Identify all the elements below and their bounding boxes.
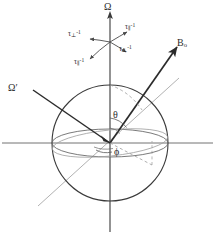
b0-base: B <box>177 37 184 48</box>
relaxation-arrow-upper-left <box>90 39 110 42</box>
tau-label-lower-right: τ⊥-1 <box>119 45 132 54</box>
phi-angle-label: ϕ <box>114 147 119 157</box>
tau-superscript: -1 <box>127 44 132 50</box>
diagram-canvas <box>0 0 216 239</box>
omega-prime-label: Ω′ <box>8 83 18 93</box>
meridian-arc-dashed <box>110 85 142 110</box>
tau-superscript: -1 <box>80 57 85 63</box>
sphere-vector-diagram: Ω Ω′ Bo θ ϕ τ∥-1 τ⊥-1 τ⊥-1 τ∥-1 <box>0 0 216 239</box>
b0-subscript: o <box>184 41 187 48</box>
tau-label-upper-left: τ⊥-1 <box>68 30 81 39</box>
relaxation-arrow-upper-right <box>110 32 127 42</box>
omega-axis-label: Ω <box>104 2 111 12</box>
omega-prime-vector-line <box>33 90 110 143</box>
tau-superscript: -1 <box>131 22 136 28</box>
b0-field-label: Bo <box>177 38 187 49</box>
theta-angle-label: θ <box>113 110 118 120</box>
tau-label-lower-left: τ∥-1 <box>74 58 84 67</box>
relaxation-arrow-lower-left <box>90 42 110 59</box>
tau-superscript: -1 <box>76 29 81 35</box>
tau-label-upper-right: τ∥-1 <box>125 23 135 32</box>
b0-vector-line <box>110 47 177 143</box>
